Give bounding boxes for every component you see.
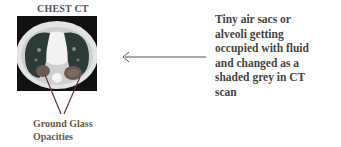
leader-line-left xyxy=(45,75,61,114)
label-line: Opacities xyxy=(33,130,93,143)
description-text: Tiny air sacs or alveoli getting occupie… xyxy=(215,12,340,99)
leader-line-right xyxy=(64,77,80,114)
ground-glass-label: Ground Glass Opacities xyxy=(33,117,93,143)
description-line: scan xyxy=(215,85,340,100)
description-line: and changed as a xyxy=(215,56,340,71)
label-line: Ground Glass xyxy=(33,117,93,130)
description-line: alveoli getting xyxy=(215,27,340,42)
description-line: Tiny air sacs or xyxy=(215,12,340,27)
description-line: occupied with fluid xyxy=(215,41,340,56)
description-line: shaded grey in CT xyxy=(215,70,340,85)
